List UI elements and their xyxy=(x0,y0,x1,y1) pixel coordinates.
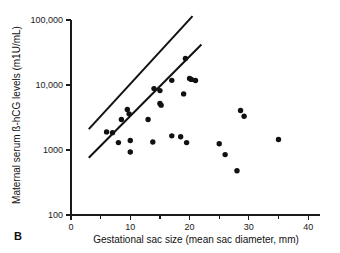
data-points xyxy=(104,56,281,174)
y-axis-tick-labels: 100100010,000100,000 xyxy=(30,15,63,220)
y-axis-title: Maternal serum ß-hCG levels (m1U/mL) xyxy=(11,26,22,204)
data-point xyxy=(119,117,124,122)
reference-lines xyxy=(89,16,202,158)
x-axis-title: Gestational sac size (mean sac diameter,… xyxy=(93,234,299,245)
x-tick-label: 30 xyxy=(244,222,254,232)
data-point xyxy=(151,86,156,91)
data-point xyxy=(184,140,189,145)
data-point xyxy=(169,133,174,138)
scatter-plot: 100100010,000100,000 010203040 Gestation… xyxy=(0,0,340,253)
data-point xyxy=(222,152,227,157)
data-point xyxy=(276,137,281,142)
data-point xyxy=(110,130,115,135)
y-axis-ticks xyxy=(66,20,71,215)
x-tick-label: 10 xyxy=(125,222,135,232)
x-tick-label: 40 xyxy=(303,222,313,232)
x-axis-ticks xyxy=(71,215,308,220)
data-point xyxy=(181,91,186,96)
data-point xyxy=(157,88,162,93)
y-tick-label: 100,000 xyxy=(30,15,63,25)
data-point xyxy=(178,134,183,139)
data-point xyxy=(104,129,109,134)
data-point xyxy=(234,168,239,173)
data-point xyxy=(126,111,131,116)
x-tick-label: 20 xyxy=(185,222,195,232)
data-point xyxy=(128,138,133,143)
x-tick-label: 0 xyxy=(68,222,73,232)
data-point xyxy=(128,149,133,154)
data-point xyxy=(183,56,188,61)
upper-bound-line xyxy=(89,16,193,129)
data-point xyxy=(145,117,150,122)
data-point xyxy=(193,78,198,83)
data-point xyxy=(217,141,222,146)
data-point xyxy=(241,114,246,119)
panel-label: B xyxy=(14,230,22,242)
y-tick-label: 1000 xyxy=(43,145,63,155)
data-point xyxy=(116,140,121,145)
figure-panel-b: 100100010,000100,000 010203040 Gestation… xyxy=(0,0,340,253)
data-point xyxy=(238,108,243,113)
x-axis-tick-labels: 010203040 xyxy=(68,222,313,232)
y-tick-label: 100 xyxy=(48,210,63,220)
lower-bound-line xyxy=(89,44,202,157)
data-point xyxy=(150,139,155,144)
data-point xyxy=(158,102,163,107)
data-point xyxy=(169,78,174,83)
y-tick-label: 10,000 xyxy=(35,80,63,90)
